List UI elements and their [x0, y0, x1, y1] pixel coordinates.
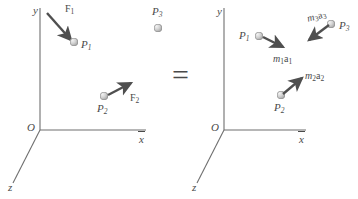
right-z-axis: [197, 130, 224, 183]
left-origin-label: O: [27, 122, 35, 133]
particle-P1-sphere: [255, 32, 263, 40]
right-y-axis-label: y: [217, 6, 222, 17]
left-axes: [0, 0, 179, 199]
particle-P2-sphere: [100, 92, 108, 100]
particle-P2-label: P2: [97, 103, 107, 115]
particle-P2-sphere: [277, 91, 285, 99]
particle-P1-sphere: [70, 38, 78, 46]
inertia-vector-m2a2-label: m2a2: [305, 71, 324, 82]
inertia-vector-m1a1-label: m1a1: [273, 54, 292, 65]
physics-figure: y x z O F1 P1 P3: [0, 0, 358, 199]
left-z-axis: [13, 130, 40, 183]
right-origin-label: O: [211, 122, 219, 133]
left-z-axis-label: z: [8, 182, 12, 193]
particle-P3-sphere: [327, 20, 335, 28]
right-z-axis-label: z: [192, 182, 196, 193]
force-vector-F1-label: F1: [65, 4, 74, 15]
particle-P1-label: P1: [239, 30, 249, 42]
particle-P3-label: P3: [339, 20, 349, 32]
right-x-axis-label: x: [299, 133, 304, 145]
force-vector-F2-label: F2: [130, 93, 139, 104]
particle-P3-sphere: [154, 24, 162, 32]
left-x-axis-label: x: [139, 133, 144, 145]
particle-P2-label: P2: [274, 102, 284, 114]
left-y-axis-label: y: [33, 5, 38, 16]
right-axes: [179, 0, 358, 199]
right-panel-inertia-diagram: y x z O P1 m1a1 m3a3 P3: [179, 0, 358, 199]
particle-P3-label: P3: [152, 6, 162, 18]
left-panel-force-diagram: y x z O F1 P1 P3: [0, 0, 179, 199]
particle-P1-label: P1: [81, 39, 91, 51]
